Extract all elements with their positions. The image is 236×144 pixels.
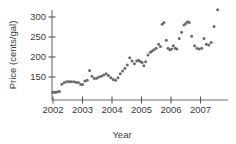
- data-point: [216, 8, 219, 11]
- data-point: [142, 64, 145, 67]
- data-point: [172, 44, 175, 47]
- axes-group: [52, 10, 228, 100]
- data-point: [210, 41, 213, 44]
- data-point: [128, 56, 131, 59]
- data-point: [170, 48, 173, 51]
- data-point: [81, 83, 84, 86]
- data-point: [155, 47, 158, 50]
- data-point: [146, 54, 149, 57]
- x-tick-label: 2006: [160, 104, 181, 115]
- data-point: [131, 60, 134, 63]
- x-tick-group: 200220032004200520062007: [42, 97, 211, 116]
- data-point: [121, 70, 124, 73]
- data-point: [162, 21, 165, 24]
- data-point: [188, 21, 191, 24]
- data-point: [58, 90, 61, 93]
- data-point: [165, 39, 168, 42]
- data-point: [200, 47, 203, 50]
- data-point: [123, 67, 126, 70]
- x-tick-label: 2005: [131, 104, 152, 115]
- data-point: [190, 35, 193, 38]
- data-point: [193, 44, 196, 47]
- x-tick-label: 2002: [42, 104, 63, 115]
- data-point: [77, 81, 80, 84]
- data-point: [88, 69, 91, 72]
- data-point: [86, 79, 89, 82]
- scatter-chart: 200220032004200520062007 150200250300 Ye…: [0, 0, 236, 144]
- data-point: [178, 37, 181, 40]
- data-point: [107, 74, 110, 77]
- y-tick-label: 300: [30, 11, 46, 22]
- data-point: [175, 48, 178, 51]
- data-point: [90, 75, 93, 78]
- y-tick-label: 250: [30, 31, 46, 42]
- data-point: [144, 60, 147, 63]
- data-point: [116, 76, 119, 79]
- data-point: [207, 44, 210, 47]
- chart-canvas: 200220032004200520062007 150200250300 Ye…: [0, 0, 236, 144]
- y-axis-title: Price (cents/gal): [7, 21, 18, 90]
- data-point: [180, 31, 183, 34]
- data-point: [126, 64, 129, 67]
- x-axis-title: Year: [112, 129, 131, 140]
- data-points-group: [52, 8, 220, 93]
- x-tick-label: 2003: [72, 104, 93, 115]
- data-point: [114, 79, 117, 82]
- data-point: [157, 43, 160, 46]
- data-point: [213, 25, 216, 28]
- x-tick-label: 2004: [101, 104, 122, 115]
- y-tick-label: 150: [30, 71, 46, 82]
- data-point: [119, 72, 122, 75]
- data-point: [133, 62, 136, 65]
- y-tick-label: 200: [30, 51, 46, 62]
- x-tick-label: 2007: [190, 104, 211, 115]
- data-point: [203, 37, 206, 40]
- data-point: [141, 61, 144, 64]
- data-point: [159, 45, 162, 48]
